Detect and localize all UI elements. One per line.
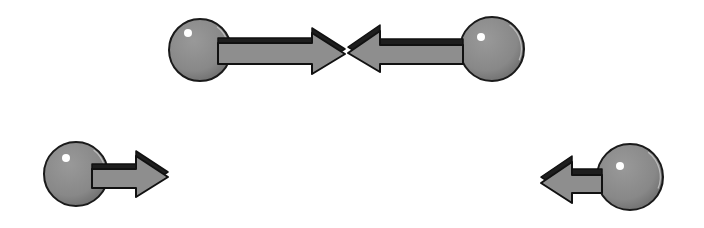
sphere-highlight bbox=[184, 29, 192, 37]
sphere-with-arrow-top-right bbox=[348, 17, 524, 81]
sphere-body bbox=[460, 17, 524, 81]
sphere-icon bbox=[460, 17, 524, 81]
sphere-highlight bbox=[62, 154, 70, 162]
sphere-highlight bbox=[616, 162, 624, 170]
arrow-face bbox=[541, 162, 602, 203]
sphere-body bbox=[597, 144, 663, 210]
sphere-with-arrow-bottom-right bbox=[541, 144, 663, 210]
diagram-layer bbox=[44, 17, 663, 210]
arrow-left-icon bbox=[541, 156, 602, 203]
arrow-left-icon bbox=[348, 25, 463, 72]
collision-diagram bbox=[0, 0, 704, 228]
sphere-with-arrow-top-left bbox=[169, 19, 345, 81]
sphere-with-arrow-bottom-left bbox=[44, 142, 168, 206]
sphere-icon bbox=[597, 144, 663, 210]
sphere-highlight bbox=[477, 33, 485, 41]
arrow-right-icon bbox=[218, 28, 345, 74]
